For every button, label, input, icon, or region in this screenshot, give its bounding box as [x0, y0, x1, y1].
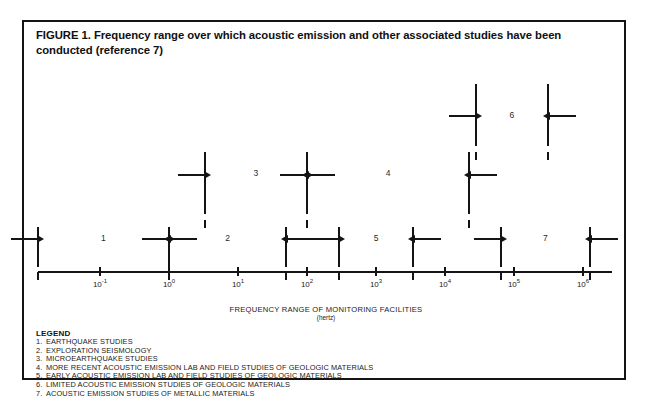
range-label-4: 4 [386, 168, 391, 178]
range-bar-start-dash-3 [204, 220, 206, 228]
range-label-3: 3 [254, 168, 259, 178]
x-tick-label-3: 103 [370, 278, 382, 289]
range-bar-end-dash-4 [468, 220, 470, 228]
range-label-2: 2 [225, 233, 230, 243]
x-tick-6 [582, 267, 584, 276]
legend-list: 1.EARTHQUAKE STUDIES2.EXPLORATION SEISMO… [36, 338, 596, 398]
range-bar-start-5 [338, 227, 340, 267]
x-tick-label-5: 105 [508, 278, 520, 289]
x-tick-label--1: 10-1 [93, 278, 107, 289]
range-label-6: 6 [510, 110, 515, 120]
range-arrow-start-7 [474, 238, 500, 240]
x-tick--1 [99, 267, 101, 276]
range-label-7: 7 [543, 233, 548, 243]
range-arrow-start-5 [312, 238, 338, 240]
range-bar-start-dash-2 [168, 272, 170, 280]
range-arrow-start-6 [449, 115, 475, 117]
range-bar-start-dash-4 [306, 220, 308, 228]
range-bar-end-5 [412, 227, 414, 267]
range-bar-start-dash-1 [37, 272, 39, 280]
range-label-1: 1 [101, 233, 106, 243]
legend-item-number: 7. [36, 390, 46, 399]
plot-area: 10-1100101102103104105106 1234567 FREQUE… [24, 22, 628, 292]
range-arrow-end-2 [288, 238, 314, 240]
range-bar-start-4 [306, 152, 308, 214]
range-arrow-start-2 [142, 238, 168, 240]
legend-item-label: ACOUSTIC EMISSION STUDIES OF METALLIC MA… [46, 389, 255, 398]
range-bar-end-4 [468, 152, 470, 214]
x-tick-1 [237, 267, 239, 276]
range-bar-end-2 [285, 227, 287, 267]
legend-item: 7.ACOUSTIC EMISSION STUDIES OF METALLIC … [36, 390, 596, 399]
range-bar-start-1 [37, 227, 39, 267]
range-bar-end-7 [589, 227, 591, 267]
range-bar-start-dash-6 [475, 152, 477, 160]
legend: LEGEND 1.EARTHQUAKE STUDIES2.EXPLORATION… [36, 329, 596, 398]
range-bar-start-3 [204, 152, 206, 214]
range-arrow-end-6 [550, 115, 576, 117]
x-axis-title: FREQUENCY RANGE OF MONITORING FACILITIES [24, 305, 628, 314]
range-bar-start-dash-5 [338, 272, 340, 280]
range-bar-start-dash-7 [500, 272, 502, 280]
x-tick-3 [375, 267, 377, 276]
x-tick-2 [306, 267, 308, 276]
x-axis-units: (hertz) [24, 314, 628, 321]
range-bar-end-dash-6 [547, 152, 549, 160]
range-arrow-end-7 [592, 238, 618, 240]
x-tick-label-1: 101 [232, 278, 244, 289]
range-arrow-start-4 [280, 174, 306, 176]
range-bar-start-7 [500, 227, 502, 267]
range-arrow-end-4 [471, 174, 497, 176]
x-axis-line [38, 271, 612, 273]
range-bar-start-2 [168, 227, 170, 267]
x-tick-label-4: 104 [439, 278, 451, 289]
range-arrow-start-1 [11, 238, 37, 240]
x-tick-label-2: 102 [301, 278, 313, 289]
x-tick-label-6: 106 [577, 278, 589, 289]
range-bar-end-dash-5 [412, 272, 414, 280]
figure-frame: FIGURE 1. Frequency range over which aco… [22, 20, 626, 380]
x-tick-5 [513, 267, 515, 276]
range-arrow-start-3 [178, 174, 204, 176]
x-tick-4 [444, 267, 446, 276]
range-label-5: 5 [374, 233, 379, 243]
range-bar-end-dash-2 [285, 272, 287, 280]
range-arrow-end-5 [415, 238, 441, 240]
range-bar-end-dash-7 [589, 272, 591, 280]
